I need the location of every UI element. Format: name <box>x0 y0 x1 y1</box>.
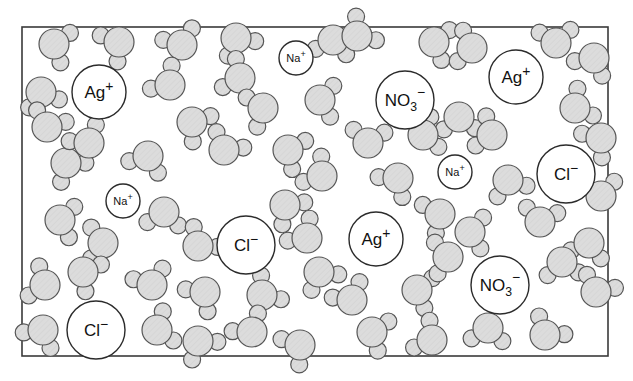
oxygen-atom <box>383 163 413 193</box>
oxygen-atom <box>292 223 322 253</box>
oxygen-atom <box>167 30 197 60</box>
ion-cl-anion: Cl− <box>67 301 125 359</box>
oxygen-atom <box>417 325 447 355</box>
ion-charge: − <box>512 269 520 285</box>
oxygen-atom <box>39 29 69 59</box>
oxygen-atom <box>177 107 207 137</box>
oxygen-atom <box>225 63 255 93</box>
ion-subscript: 3 <box>505 285 512 299</box>
oxygen-atom <box>149 197 179 227</box>
oxygen-atom <box>402 275 432 305</box>
ion-na-cation: Na+ <box>438 155 472 189</box>
ion-charge: + <box>382 225 390 241</box>
oxygen-atom <box>270 190 300 220</box>
oxygen-atom <box>433 242 463 272</box>
oxygen-atom <box>273 135 303 165</box>
oxygen-atom <box>357 317 387 347</box>
oxygen-atom <box>248 93 278 123</box>
oxygen-atom <box>32 112 62 142</box>
oxygen-atom <box>419 27 449 57</box>
ion-na-cation: Na+ <box>106 184 140 218</box>
ion-cl-anion: Cl− <box>217 216 275 274</box>
oxygen-atom <box>104 27 134 57</box>
oxygen-atom <box>525 207 555 237</box>
ion-charge: − <box>570 160 578 176</box>
oxygen-atom <box>574 228 604 258</box>
oxygen-atom <box>444 102 474 132</box>
ion-charge: + <box>300 49 305 59</box>
oxygen-atom <box>88 228 118 258</box>
oxygen-atom <box>137 270 167 300</box>
ion-charge: + <box>459 163 464 173</box>
oxygen-atom <box>473 313 503 343</box>
ion-charge: + <box>127 192 132 202</box>
ion-subscript: 3 <box>410 100 417 114</box>
ion-cl-anion: Cl− <box>537 145 595 203</box>
oxygen-atom <box>183 326 213 356</box>
ion-charge: − <box>417 84 425 100</box>
ion-na-cation: Na+ <box>279 41 313 75</box>
ion-charge: + <box>105 78 113 94</box>
ion-charge: + <box>522 63 530 79</box>
oxygen-atom <box>342 21 372 51</box>
ion-no-anion: NO3− <box>376 71 434 129</box>
oxygen-atom <box>68 257 98 287</box>
oxygen-atom <box>51 148 81 178</box>
oxygen-atom <box>581 277 611 307</box>
oxygen-atom <box>586 123 616 153</box>
ion-ag-cation: Ag+ <box>72 65 126 119</box>
solution-diagram: Ag+Ag+Ag+Cl−Cl−Cl−Na+Na+Na+NO3−NO3− <box>0 0 633 381</box>
ion-charge: − <box>250 231 258 247</box>
ion-ag-cation: Ag+ <box>349 212 403 266</box>
oxygen-atom <box>353 128 383 158</box>
oxygen-atom <box>425 199 455 229</box>
oxygen-atom <box>221 23 251 53</box>
oxygen-atom <box>30 270 60 300</box>
oxygen-atom <box>457 33 487 63</box>
oxygen-atom <box>304 257 334 287</box>
oxygen-atom <box>337 285 367 315</box>
oxygen-atom <box>285 330 315 360</box>
oxygen-atom <box>133 141 163 171</box>
oxygen-atom <box>190 277 220 307</box>
oxygen-atom <box>305 85 335 115</box>
oxygen-atom <box>45 205 75 235</box>
oxygen-atom <box>142 315 172 345</box>
oxygen-atom <box>307 161 337 191</box>
oxygen-atom <box>530 320 560 350</box>
ion-charge: − <box>100 316 108 332</box>
oxygen-atom <box>455 217 485 247</box>
oxygen-atom <box>579 43 609 73</box>
solution-canvas: Ag+Ag+Ag+Cl−Cl−Cl−Na+Na+Na+NO3−NO3− <box>0 0 633 381</box>
oxygen-atom <box>493 165 523 195</box>
oxygen-atom <box>560 93 590 123</box>
oxygen-atom <box>547 247 577 277</box>
ion-ag-cation: Ag+ <box>489 50 543 104</box>
oxygen-atom <box>477 120 507 150</box>
oxygen-atom <box>541 28 571 58</box>
oxygen-atom <box>28 315 58 345</box>
oxygen-atom <box>155 70 185 100</box>
oxygen-atom <box>209 135 239 165</box>
oxygen-atom <box>183 231 213 261</box>
ion-no-anion: NO3− <box>471 256 529 314</box>
oxygen-atom <box>74 128 104 158</box>
oxygen-atom <box>237 317 267 347</box>
